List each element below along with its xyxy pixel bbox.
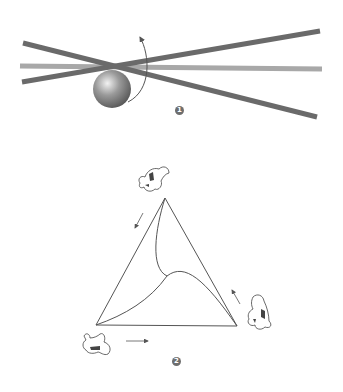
rod-horizontal [20, 66, 322, 69]
dog-right [248, 295, 271, 329]
sphere [93, 70, 131, 108]
figure-2-label: 2 [172, 357, 181, 366]
dog-left [83, 334, 110, 355]
arrow-top-to-left [135, 213, 143, 228]
figure-2-pursuit-triangle [83, 167, 271, 355]
triangle [96, 198, 237, 326]
arrow-right-to-top [232, 290, 240, 304]
figure-1-label: 1 [175, 106, 184, 115]
dog-top [139, 167, 169, 191]
pursuit-curve [96, 198, 237, 326]
rod-falling [23, 43, 317, 117]
figure-1-balance-rods [20, 31, 322, 117]
diagram-canvas [0, 0, 343, 392]
